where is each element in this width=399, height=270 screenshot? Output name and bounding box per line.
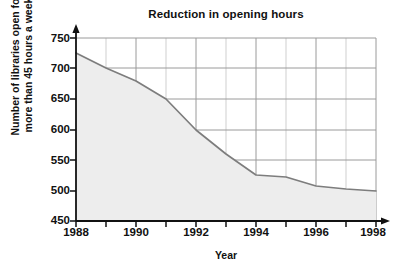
plot-area bbox=[0, 0, 399, 270]
chart-container: Reduction in opening hours Number of lib… bbox=[0, 0, 399, 270]
